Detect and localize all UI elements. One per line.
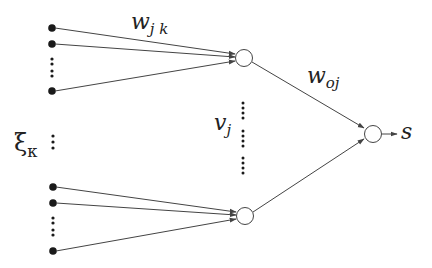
ellipsis-dots	[51, 216, 54, 236]
output-node	[365, 126, 382, 143]
output-weight-edge-bottom	[253, 139, 364, 212]
input-node	[49, 199, 57, 207]
input-node	[48, 24, 56, 32]
weight-edge	[56, 219, 236, 251]
input-node	[48, 87, 56, 95]
weight-edge	[55, 61, 235, 91]
input-group-bottom	[49, 183, 236, 255]
hidden-node-bottom	[237, 208, 254, 225]
ellipsis-dots	[50, 57, 53, 77]
hidden-node-top	[236, 50, 253, 67]
input-weight-label: wj k	[131, 11, 168, 37]
input-node	[49, 247, 57, 255]
input-ellipsis-middle	[51, 134, 54, 149]
hidden-ellipsis	[242, 102, 245, 175]
input-node	[49, 183, 57, 191]
output-weight-label: woj	[307, 65, 339, 91]
weight-edge	[56, 187, 236, 212]
hidden-activation-label: vj	[214, 112, 231, 138]
input-label: ξκ	[14, 131, 37, 160]
weight-edge	[56, 203, 236, 215]
input-node	[48, 40, 56, 48]
output-label: s	[401, 121, 412, 143]
